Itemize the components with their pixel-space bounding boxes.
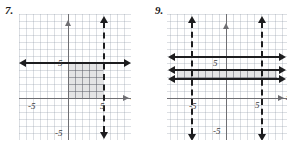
boundary-y4-left-arrow-icon <box>168 66 175 74</box>
x-axis <box>167 98 287 99</box>
y-axis <box>68 14 69 140</box>
boundary-y3-right-arrow-icon <box>279 75 286 83</box>
worksheet-page: 7. 5 -5 5 -5 y <box>0 0 301 147</box>
boundary-y5-right-arrow-icon <box>124 59 131 67</box>
y-tick-label-5: 5 <box>58 58 63 68</box>
boundary-x5-up-arrow-icon <box>258 16 266 23</box>
x-tick-label-neg5: -5 <box>189 101 197 111</box>
boundary-line-x-equals-5 <box>103 22 105 132</box>
problem-7: 7. 5 -5 5 -5 y <box>0 0 150 147</box>
shaded-solution-region <box>68 63 103 98</box>
boundary-x5-up-arrow-icon <box>100 16 108 23</box>
boundary-xneg5-up-arrow-icon <box>188 16 196 23</box>
x-tick-label-5: 5 <box>255 100 260 110</box>
boundary-x5-down-arrow-icon <box>258 134 266 140</box>
boundary-xneg5-down-arrow-icon <box>188 134 196 140</box>
y-axis <box>226 14 227 140</box>
y-tick-label-neg5: -5 <box>55 128 63 138</box>
y-tick-label-neg5: -5 <box>213 126 221 136</box>
boundary-line-x-equals-5 <box>261 22 263 134</box>
problem-9: 9. <box>150 0 301 147</box>
boundary-y3-left-arrow-icon <box>168 75 175 83</box>
problem-7-graph: 5 -5 5 -5 y x <box>19 14 131 140</box>
boundary-y4-right-arrow-icon <box>279 66 286 74</box>
x-tick-label-neg5: -5 <box>28 101 36 111</box>
boundary-x5-down-arrow-icon <box>100 132 108 139</box>
y-axis-arrow-icon <box>65 20 71 26</box>
problem-9-number: 9. <box>155 4 163 16</box>
problem-9-graph: 5 -5 5 -5 y x <box>167 14 287 140</box>
boundary-y5-left-arrow-icon <box>19 59 26 67</box>
x-axis-label: x <box>286 92 287 102</box>
boundary-line-y-equals-5 <box>25 62 124 64</box>
x-axis-arrow-icon <box>123 95 129 101</box>
x-tick-label-5: 5 <box>100 101 105 111</box>
problem-7-number: 7. <box>5 4 13 16</box>
x-axis-arrow-icon <box>278 95 284 101</box>
boundary-y6-right-arrow-icon <box>279 53 286 61</box>
boundary-line-x-equals-neg5 <box>191 22 193 134</box>
y-axis-arrow-icon <box>223 23 229 29</box>
x-axis <box>19 98 131 99</box>
y-tick-label-5: 5 <box>213 58 218 68</box>
boundary-y6-left-arrow-icon <box>168 53 175 61</box>
